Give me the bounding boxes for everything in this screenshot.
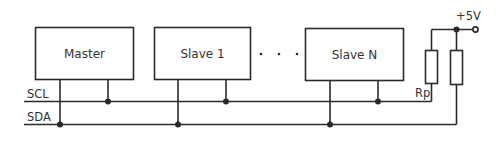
pullup-resistor-scl [426,51,438,84]
i2c-bus-diagram: Master Slave 1 Slave N SCL SDA Rp +5V [0,0,503,141]
rp-label: Rp [415,86,430,100]
ellipsis-dot [278,53,281,56]
master-label: Master [64,47,105,61]
scl-label: SCL [27,87,49,101]
junction-dot [327,122,333,128]
pullup-resistor-sda [451,51,463,85]
slave-n-label: Slave N [332,48,378,62]
junction-dot [105,99,111,105]
junction-dot [223,99,229,105]
slave-1-label: Slave 1 [180,47,224,61]
junction-dot [175,122,181,128]
supply-label: +5V [456,9,481,23]
junction-dot [375,99,381,105]
ellipsis-dot [260,53,263,56]
ellipsis-dot [296,53,299,56]
sda-label: SDA [27,110,51,124]
junction-dot [454,27,460,33]
vcc-terminal-icon [473,27,478,32]
junction-dot [57,122,63,128]
